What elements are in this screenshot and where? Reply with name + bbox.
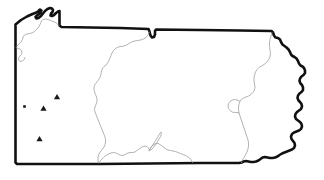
marker-square-west: [23, 105, 26, 108]
pennsylvania-state-outline: [16, 8, 306, 164]
map-canvas: [0, 0, 324, 180]
pennsylvania-map-figure: [0, 0, 324, 180]
